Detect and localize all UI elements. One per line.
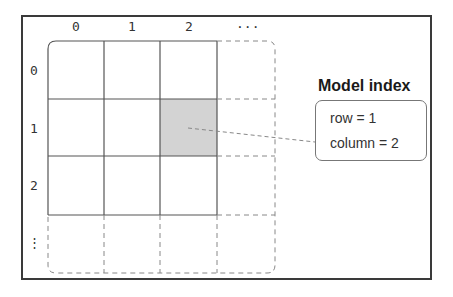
row-label-1: 1 xyxy=(27,121,41,136)
row-label-0: 0 xyxy=(27,63,41,78)
highlighted-cell xyxy=(160,99,217,156)
dashed-grid xyxy=(48,41,275,273)
column-label-1: 1 xyxy=(122,19,142,34)
column-label-0: 0 xyxy=(66,19,86,34)
row-label-2: 2 xyxy=(27,178,41,193)
model-index-column: column = 2 xyxy=(330,135,399,151)
column-label-2: 2 xyxy=(179,19,199,34)
row-label-ellipsis: ⋮ xyxy=(27,235,41,250)
column-label-ellipsis: ... xyxy=(236,16,256,31)
model-index-title: Model index xyxy=(318,77,410,95)
model-index-box: row = 1 column = 2 xyxy=(315,100,427,161)
model-index-row: row = 1 xyxy=(330,110,376,126)
